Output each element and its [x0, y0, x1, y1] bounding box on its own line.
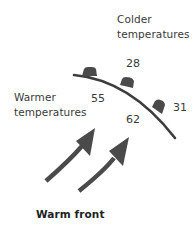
warm-air-arrows — [46, 128, 129, 191]
cold-region-label-line1: Colder — [117, 12, 190, 26]
front-bump-icon — [120, 77, 134, 88]
cold-region-label-line2: temperatures — [117, 27, 190, 41]
warm-region-label-line2: temperatures — [14, 105, 87, 119]
warm-region-label: Warmer temperatures — [14, 90, 87, 119]
temperature-28: 28 — [126, 57, 140, 71]
cold-region-label: Colder temperatures — [117, 12, 190, 41]
temperature-62: 62 — [126, 113, 140, 127]
diagram-caption: Warm front — [36, 207, 105, 221]
temperature-55: 55 — [91, 92, 105, 106]
arrow-up-right-icon — [46, 128, 95, 181]
temperature-31: 31 — [173, 101, 187, 115]
front-bump-icon — [82, 67, 97, 76]
warm-region-label-line1: Warmer — [14, 90, 87, 104]
warm-front-line — [74, 67, 175, 138]
front-bump-icon — [152, 99, 165, 114]
